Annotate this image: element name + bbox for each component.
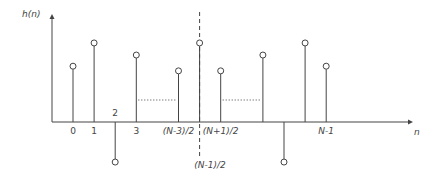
stem-marker — [133, 52, 139, 58]
stem-marker — [260, 52, 266, 58]
y-axis-label: h(n) — [22, 9, 40, 19]
x-axis-label: n — [414, 127, 420, 137]
stem-marker — [197, 40, 203, 46]
stem-marker — [218, 68, 224, 74]
tick-label: 1 — [91, 126, 97, 136]
stem-marker — [112, 159, 118, 165]
stem-marker — [281, 159, 287, 165]
tick-label: 0 — [70, 126, 76, 136]
tick-label: 3 — [133, 126, 139, 136]
axes — [50, 12, 414, 158]
tick-label: 2 — [112, 108, 118, 118]
center-label: (N-1)/2 — [194, 160, 226, 170]
stem-marker — [176, 68, 182, 74]
tick-label: (N+1)/2 — [203, 126, 239, 136]
x-axis-arrow — [408, 120, 413, 125]
stem-marker — [70, 63, 76, 69]
stem-marker — [323, 63, 329, 69]
y-axis-arrow — [50, 14, 55, 19]
stem-diagram: h(n) n (N-1)/2 0123(N-3)/2(N+1)/2N-1 — [0, 0, 438, 184]
stem-marker — [91, 40, 97, 46]
stem-marker — [302, 40, 308, 46]
tick-label: N-1 — [318, 126, 334, 136]
tick-label: (N-3)/2 — [163, 126, 195, 136]
